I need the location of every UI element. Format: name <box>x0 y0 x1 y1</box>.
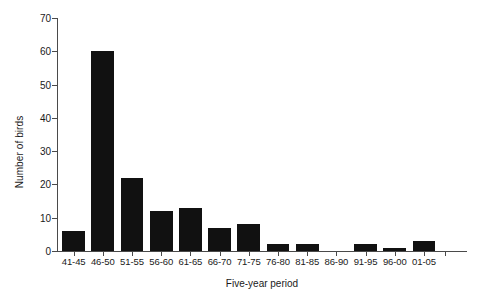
bar <box>237 224 260 251</box>
y-axis-tick-label: 20 <box>11 180 51 190</box>
x-axis-tick-label: 01-05 <box>406 256 442 267</box>
bar-slot <box>409 18 438 251</box>
bar-slot <box>263 18 292 251</box>
y-axis-tick-label: 30 <box>11 147 51 157</box>
bar-slot <box>234 18 263 251</box>
bar <box>91 51 114 251</box>
bar <box>208 228 231 251</box>
bar <box>150 211 173 251</box>
bar <box>267 244 290 251</box>
y-axis-tick-label: 60 <box>11 47 51 57</box>
bar-slot <box>351 18 380 251</box>
bar <box>62 231 85 251</box>
x-axis-tick-labels: 41-4546-5051-5556-6061-6566-7071-7576-80… <box>57 256 467 270</box>
y-axis-tick-label: 70 <box>11 14 51 24</box>
y-axis-tick-labels: 010203040506070 <box>9 18 51 252</box>
y-axis-tick-label: 0 <box>11 247 51 257</box>
bar-slot <box>59 18 88 251</box>
bar <box>413 241 436 251</box>
bar-slot <box>147 18 176 251</box>
bar-slot <box>88 18 117 251</box>
bar-series <box>57 18 467 251</box>
x-axis-line <box>57 251 467 252</box>
bar-slot <box>293 18 322 251</box>
bar-slot <box>117 18 146 251</box>
bar <box>121 178 144 251</box>
x-axis-title: Five-year period <box>57 278 467 289</box>
y-axis-tick <box>52 251 57 252</box>
bar-slot <box>176 18 205 251</box>
bar <box>354 244 377 251</box>
bar-chart-figure: Number of birds 010203040506070 41-4546-… <box>0 0 487 304</box>
y-axis-tick-label: 10 <box>11 214 51 224</box>
bar-slot <box>205 18 234 251</box>
bar <box>296 244 319 251</box>
bar <box>179 208 202 251</box>
y-axis-tick-label: 40 <box>11 114 51 124</box>
y-axis-tick-label: 50 <box>11 81 51 91</box>
bar <box>383 248 406 251</box>
bar-slot <box>380 18 409 251</box>
bar-slot <box>322 18 351 251</box>
plot-area: 010203040506070 <box>57 18 467 252</box>
